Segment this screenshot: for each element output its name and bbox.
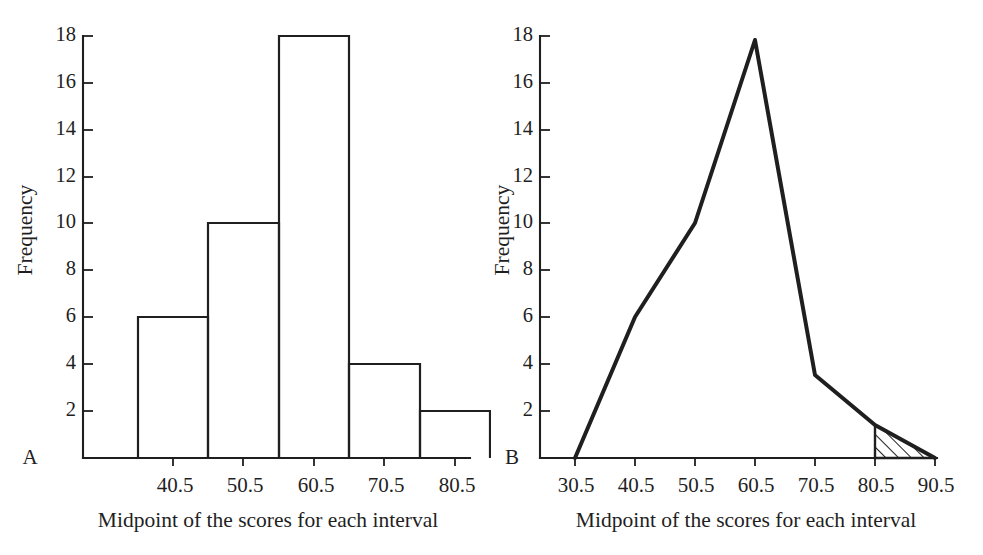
x-tick-label: 60.5 [298, 473, 335, 497]
panel-a-letter: A [22, 445, 38, 469]
panel-a-x-axis-title: Midpoint of the scores for each interval [98, 508, 438, 532]
y-tick-label: 10 [513, 210, 534, 232]
x-tick-label: 70.5 [798, 473, 835, 497]
y-tick-label: 4 [66, 351, 76, 373]
panel-b-frequency-polygon: 2 4 6 8 10 12 14 16 18 [491, 0, 982, 555]
y-tick-label: 14 [56, 117, 77, 139]
y-tick-label: 16 [56, 70, 77, 92]
x-tick-label: 30.5 [558, 473, 595, 497]
panel-a-y-axis-title: Frequency [13, 184, 37, 275]
x-tick-label: 50.5 [678, 473, 715, 497]
y-tick-label: 2 [523, 398, 533, 420]
x-tick-label: 80.5 [858, 473, 895, 497]
bar-60-5 [279, 36, 349, 458]
y-tick-label: 12 [56, 164, 77, 186]
y-tick-label: 16 [513, 70, 534, 92]
panel-b-x-tick-labels: 30.5 40.5 50.5 60.5 70.5 80.5 90.5 [558, 473, 955, 497]
panel-a-y-ticks [83, 36, 93, 411]
panel-b-y-tick-labels: 2 4 6 8 10 12 14 16 18 [513, 23, 534, 420]
x-tick-label: 80.5 [439, 473, 476, 497]
x-tick-label: 90.5 [918, 473, 955, 497]
y-tick-label: 8 [66, 257, 76, 279]
bar-50-5 [208, 223, 279, 458]
y-tick-label: 10 [56, 210, 77, 232]
y-tick-label: 4 [523, 351, 533, 373]
panel-b-letter: B [505, 445, 519, 469]
x-tick-label: 50.5 [227, 473, 264, 497]
panel-a-bars [138, 36, 490, 458]
x-tick-label: 40.5 [618, 473, 655, 497]
y-tick-label: 12 [513, 164, 534, 186]
x-tick-label: 60.5 [738, 473, 775, 497]
panel-b-y-ticks [540, 36, 550, 411]
y-tick-label: 18 [56, 23, 77, 45]
figure-container: 2 4 6 8 10 12 14 16 18 [0, 0, 983, 555]
frequency-polygon-line [575, 40, 935, 458]
panel-b-x-axis-title: Midpoint of the scores for each interval [576, 508, 916, 532]
panel-a-x-ticks [173, 458, 455, 466]
y-tick-label: 18 [513, 23, 534, 45]
panel-b-y-axis-title: Frequency [491, 184, 514, 275]
x-tick-label: 40.5 [157, 473, 194, 497]
y-tick-label: 14 [513, 117, 534, 139]
y-tick-label: 2 [66, 398, 76, 420]
panel-a-histogram: 2 4 6 8 10 12 14 16 18 [0, 0, 491, 555]
bar-40-5 [138, 317, 208, 458]
y-tick-label: 8 [523, 257, 533, 279]
bar-70-5 [349, 364, 420, 458]
y-tick-label: 6 [523, 304, 533, 326]
x-tick-label: 70.5 [368, 473, 405, 497]
panel-a-y-tick-labels: 2 4 6 8 10 12 14 16 18 [56, 23, 77, 420]
panel-a-x-tick-labels: 40.5 50.5 60.5 70.5 80.5 [157, 473, 476, 497]
bar-80-5 [420, 411, 490, 458]
panel-a-svg: 2 4 6 8 10 12 14 16 18 [0, 0, 491, 555]
y-tick-label: 6 [66, 304, 76, 326]
panel-b-svg: 2 4 6 8 10 12 14 16 18 [491, 0, 982, 555]
